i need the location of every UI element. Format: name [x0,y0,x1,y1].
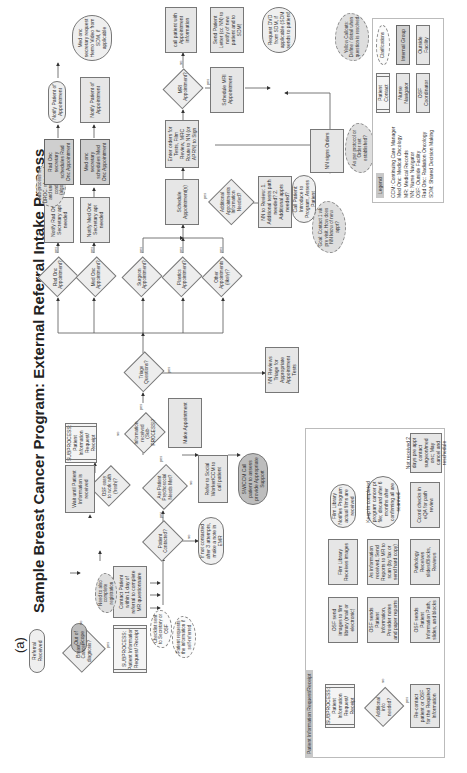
rad-onc-secretary-node: Rad Onc secretary schedules Rad Onc Appo… [44,139,74,185]
sub-osf-sends-info-node: OSF sends Patient Information, Provider … [367,597,399,643]
other-appointment-decision: Other Appointments (likely)? [202,256,242,298]
edge-label-yes: yes [105,642,110,648]
sub-ccrd-checks-node: Ccord checks in eQA for path review [410,482,440,528]
med-onc-request-video-node: Med onc secretary request Hemo Video fro… [72,15,112,61]
legend-abbreviations: CCM: Continuing Care Manager Med Onc: Me… [390,127,434,198]
legend-yellow-callouts-note: Yellow Callouts: Define / detail when qu… [335,13,369,61]
edge-label-no: no [178,61,183,65]
edge-label-yes: yes [205,79,210,85]
flowchart-canvas: (a) Sample Breast Cancer Program: Extern… [0,0,467,773]
edge-label-yes: yes [89,247,94,253]
sub-as-information-node: As information received, Send Reports to… [367,539,399,585]
surgeon-appointment-decision: Surgeon Appointment? [122,256,162,298]
med-onc-appointment-decision: Med Onc Appointment? [76,256,116,298]
nn-to-review-node: NN to Review: 1. Additional tests path n… [258,176,292,228]
rad-onc-appointment-decision: Rad Onc Appointment? [38,256,78,298]
sub-pathology-receives-node: Pathology Receives slides/Blocks, Review… [410,539,440,585]
sub-film-library-node: Film Library Receives images [328,539,358,585]
sub-osf-sends-images-node: OSF send images to film library (mail or… [328,597,358,643]
edge-label-yes: yes [138,247,143,253]
sub-osf-sends-path-node: OSF sends Patient Information Path, slid… [410,597,440,643]
nn-signs-orders-node: NN signs Orders [310,129,344,173]
need-to-also-note: Need to also complete registration [95,573,117,613]
sub-subprocess-node: SUBPROCESS: Patient Information Request/… [325,684,355,728]
legend-osf-coordinator: OSF Coordinator [416,73,430,113]
subprocess-patient-info-2-node: SUBPROCESS: Patient Information Request/… [65,423,97,463]
send-patient-letter-node: Send Patient Letter (cc NN) to notify of… [210,7,244,53]
enter-orders-node: Enter orders for Tests, Film Review, MRC… [165,120,199,168]
nn-reviews-triage-node: NN Reviews Triage for Appropriate Appoin… [265,347,299,393]
edge-label-yes: yes [158,512,163,518]
refer-social-worker-node: Refer to Social Worker/CCM to call patie… [198,455,228,503]
subprocess-panel-title: Patient Information Request/Receipt [305,670,313,758]
notify-med-onc-node: Notify Med Onc Secretary apt needed [80,197,110,243]
as-per-protocol-note: As per protocol or Order set established… [345,123,375,173]
legend-outside-facility: Outside Facility [416,25,430,65]
call-patient-appointment-node: call patient with Appointment informatio… [165,7,197,53]
mri-appointment-decision: MRI Appointment? [163,68,203,110]
osf-easy-decision: OSF easy to work with (fresh)? [90,464,130,508]
notify-patient-med-node: Notify Patient of Appointment [80,77,110,123]
sub-recontact-node: Re-contact patient or OSF for the Requir… [410,684,440,728]
if-not-contacted-node: If not contacted after 3 attempts, make … [198,517,224,565]
edge-label-yes: yes [158,456,163,462]
psychosocial-needs-decision: Are Patient Psychosocial Needs Met? [143,463,187,511]
request-dvd-node: Request DVD from SDM, if applicable (SDM… [262,7,296,53]
edge-label-yes: yes [178,247,183,253]
edge-label-yes: yes [166,367,171,373]
edge-label-yes: yes [218,247,223,253]
edge-label-no: no [78,621,83,625]
edge-label-no: no [115,432,120,436]
referral-received-node: Referral Received [29,629,45,673]
make-appointment-node: Make Appointment [168,398,202,448]
sw-ccm-call-node: SW/CCM Call patient to assess provide Ap… [238,453,268,505]
edge-label-yes: yes [138,404,143,410]
edge-label-no: no [186,535,191,539]
edge-label-yes: yes [202,193,207,199]
subprocess-patient-info-node: SUBPROCESS: Patient Information Request/… [113,625,147,673]
contact-patient-node: Contact Patient within 1 day of referral… [113,566,147,618]
call-patient-intro-node: Call Patient: Introduce to Program, Asse… [292,175,316,223]
patient-contacted-decision: Patient Contacted? [143,519,183,563]
additional-appointments-decision: Additional Appointments Information Need… [208,179,254,225]
legend-patient-contact: Patient Contact [376,73,390,113]
edge-label-yes: yes [53,247,58,253]
sub-additional-info-decision: Additional info needed? [365,686,403,728]
legend-internal-group: Internal Group [396,25,410,65]
edge-label-no: no [380,679,385,683]
sub-keep-in-program-node: Keep in completed program cancer pt file… [367,476,399,528]
sub-film-library-notifies-node: Film Library Notifies Program actual fil… [330,484,356,528]
schedule-mri-node: Schedule MRI Appointment [210,67,244,113]
schedule-appointments-node: Schedule Appointment(s) [165,179,199,225]
edge-label-yes: yes [404,697,409,703]
triage-questions-decision: Triage Questions? [124,351,164,393]
checklist-sent-note: Checklist sent to Secretary or OSF [150,610,172,648]
legend-nurse-navigator: Nurse Navigator [396,73,410,113]
edge-label-no: no [188,481,193,485]
figure-label: (a) [12,637,27,653]
legend-clarifications: Clarifications [376,25,390,65]
patient-requests-note: Patient requests the information if self… [172,616,196,658]
legend-title: Legend [376,173,384,198]
wait-until-info-node: Wait until Patient Information is receiv… [65,465,95,513]
goal-contact-note: Goal: Contact 1 wk pre visit. How does N… [312,201,346,253]
med-onc-secretary-node: Med onc secretary schedules Med Onc Appo… [80,139,110,185]
plastics-appointment-decision: Plastics Appointment? [162,256,202,298]
information-received-decision: Information received (Sub-PROCESS)? [125,411,165,455]
sub-not-received-node: Not received 2 days pre appt contact sur… [410,433,442,473]
notify-patient-rad-node: Notify Patient of Appointment [48,81,66,123]
